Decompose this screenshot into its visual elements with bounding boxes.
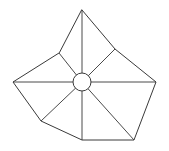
spoke-bottom-right: [82, 82, 134, 140]
polygon-hub-diagram: [0, 0, 169, 151]
hub-circle: [73, 73, 91, 91]
